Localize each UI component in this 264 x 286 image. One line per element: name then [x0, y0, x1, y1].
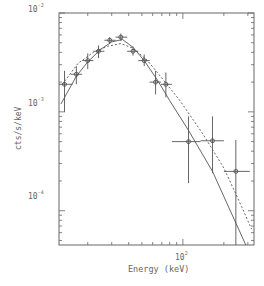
- data-point: [161, 73, 172, 98]
- y-tick-label-1e-4: 10-4: [28, 190, 44, 201]
- data-point: [104, 37, 115, 43]
- data-point: [71, 66, 82, 84]
- x-tick-label-1e2: 102: [175, 251, 188, 262]
- y-tick-label-1e-3: 10-3: [28, 97, 44, 108]
- data-point: [224, 140, 250, 245]
- axis-ticks: [59, 13, 254, 245]
- x-tick-exponent: 2: [185, 250, 188, 256]
- spectrum-plot: [0, 0, 264, 286]
- data-point: [138, 55, 149, 67]
- y-tick-exponent: -4: [38, 189, 44, 195]
- y-tick-exponent: -3: [38, 96, 44, 102]
- y-axis-label: cts/s/keV: [14, 107, 23, 150]
- x-tick-base: 10: [175, 253, 185, 262]
- solid-model-curve: [61, 40, 246, 246]
- data-points: [59, 34, 250, 245]
- y-tick-base: 10: [28, 5, 38, 14]
- model-curves: [61, 40, 252, 246]
- data-point: [59, 71, 73, 112]
- y-tick-base: 10: [28, 99, 38, 108]
- dashed-model-curve: [62, 44, 251, 230]
- data-point: [201, 116, 224, 173]
- x-axis-label: Energy (keV): [128, 264, 189, 274]
- data-point: [127, 46, 138, 55]
- plot-frame: [59, 13, 254, 245]
- y-tick-exponent: -2: [38, 2, 44, 8]
- data-point: [93, 45, 104, 58]
- y-tick-label-1e-2: 10-2: [28, 3, 44, 14]
- y-tick-base: 10: [28, 192, 38, 201]
- axes-box: [59, 13, 254, 245]
